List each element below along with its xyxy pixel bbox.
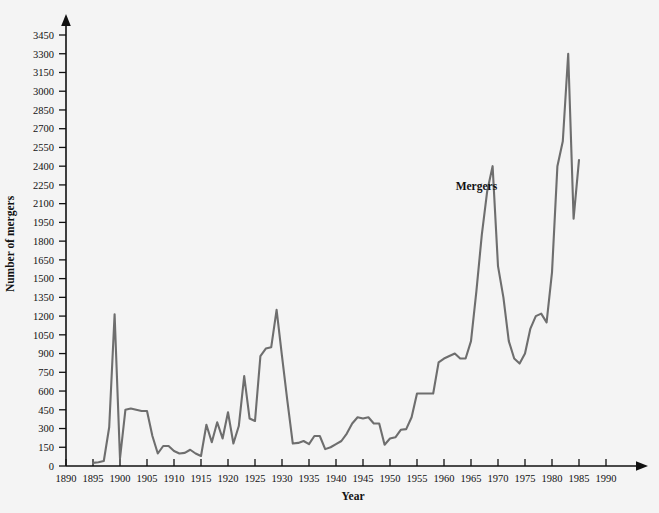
x-tick-label: 1905	[137, 473, 158, 484]
x-tick-label: 1925	[245, 473, 266, 484]
y-tick-label: 2250	[33, 180, 54, 191]
y-tick-label: 3450	[33, 30, 54, 41]
x-tick-label: 1890	[56, 473, 77, 484]
y-tick-label: 1050	[33, 330, 54, 341]
y-tick-label: 750	[38, 367, 54, 378]
y-tick-label: 0	[49, 461, 54, 472]
x-tick-label: 1910	[164, 473, 185, 484]
x-tick-label: 1990	[596, 473, 617, 484]
x-tick-label: 1950	[380, 473, 401, 484]
y-tick-label: 1350	[33, 292, 54, 303]
y-tick-label: 2550	[33, 142, 54, 153]
y-tick-label: 300	[38, 423, 54, 434]
y-tick-label: 2850	[33, 105, 54, 116]
y-tick-label: 150	[38, 442, 54, 453]
y-tick-label: 1950	[33, 217, 54, 228]
x-tick-label: 1895	[83, 473, 104, 484]
x-tick-label: 1975	[515, 473, 536, 484]
x-axis-title: Year	[342, 490, 365, 502]
y-tick-label: 900	[38, 348, 54, 359]
y-tick-label: 2400	[33, 161, 54, 172]
y-axis-title: Number of mergers	[4, 195, 17, 292]
x-tick-label: 1920	[218, 473, 239, 484]
series-label-mergers: Mergers	[456, 180, 498, 193]
x-tick-label: 1955	[407, 473, 428, 484]
x-tick-label: 1970	[488, 473, 509, 484]
y-tick-label: 3300	[33, 49, 54, 60]
x-tick-label: 1940	[326, 473, 347, 484]
x-tick-label: 1960	[434, 473, 455, 484]
y-tick-label: 3000	[33, 86, 54, 97]
x-tick-label: 1935	[299, 473, 320, 484]
y-tick-label: 1650	[33, 255, 54, 266]
y-tick-label: 1200	[33, 311, 54, 322]
x-tick-label: 1930	[272, 473, 293, 484]
x-tick-label: 1915	[191, 473, 212, 484]
chart-background	[0, 0, 659, 513]
y-tick-label: 2100	[33, 198, 54, 209]
x-tick-label: 1945	[353, 473, 374, 484]
y-tick-label: 2700	[33, 123, 54, 134]
x-tick-label: 1980	[542, 473, 563, 484]
x-tick-label: 1965	[461, 473, 482, 484]
y-tick-label: 3150	[33, 67, 54, 78]
chart-figure: 0150300450600750900105012001350150016501…	[0, 0, 659, 513]
y-tick-label: 450	[38, 405, 54, 416]
x-tick-label: 1985	[569, 473, 590, 484]
y-tick-label: 600	[38, 386, 54, 397]
y-tick-label: 1500	[33, 273, 54, 284]
x-tick-label: 1900	[110, 473, 131, 484]
y-tick-label: 1800	[33, 236, 54, 247]
mergers-line-chart: 0150300450600750900105012001350150016501…	[0, 0, 659, 513]
